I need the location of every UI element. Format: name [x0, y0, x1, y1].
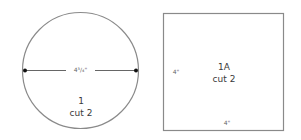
diameter-endpoint-left: [23, 69, 27, 73]
pattern-diagram: [0, 0, 301, 140]
circle-piece-number: 1: [60, 96, 102, 106]
circle-diameter-label: 4³/₄": [66, 65, 95, 75]
square-side-dimension: 4": [170, 67, 182, 77]
square-piece-cut: cut 2: [202, 74, 246, 84]
circle-piece-cut: cut 2: [60, 108, 102, 118]
square-bottom-dimension: 4": [221, 118, 233, 128]
diameter-endpoint-right: [134, 69, 138, 73]
square-piece-number: 1A: [202, 62, 246, 72]
